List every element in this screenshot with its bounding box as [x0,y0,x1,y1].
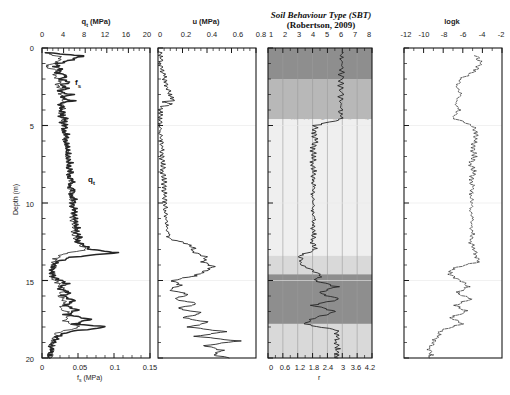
cptu-log-figure: qt (MPa) u (MPa) Soil Behaviour Type (SB… [0,0,510,395]
sbt-depth-band-2 [268,119,372,255]
plot-canvas [0,0,510,395]
sbt-depth-band-0 [268,48,372,79]
sbt-depth-band-4 [268,274,372,324]
logk-curve [427,56,482,358]
u-curve [158,51,241,358]
sbt-depth-band-3 [268,256,372,275]
sbt-depth-band-1 [268,79,372,119]
sbt-depth-band-5 [268,324,372,358]
qt-curve [45,53,118,358]
